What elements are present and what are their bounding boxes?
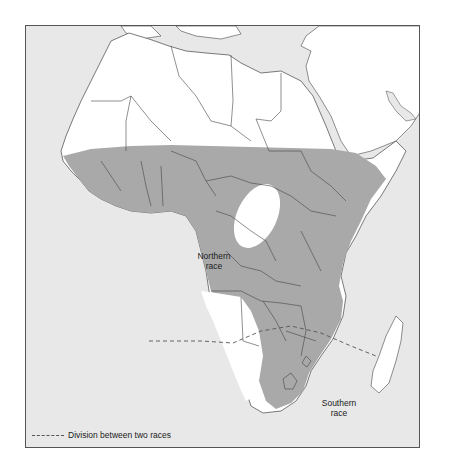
label-southern-race: Southern race [316, 398, 362, 418]
map-frame: Northern race Southern race [25, 25, 420, 448]
label-southern-race-line2: race [316, 408, 362, 418]
label-northern-race: Northern race [194, 251, 234, 271]
dashed-line-icon [32, 435, 64, 436]
land-madagascar [371, 316, 403, 393]
label-northern-race-line2: race [194, 261, 234, 271]
range-area [63, 145, 386, 409]
legend: Division between two races [32, 430, 171, 440]
label-northern-race-line1: Northern [194, 251, 234, 261]
label-southern-race-line1: Southern [316, 398, 362, 408]
legend-division-label: Division between two races [68, 430, 171, 440]
africa-map [26, 26, 420, 448]
